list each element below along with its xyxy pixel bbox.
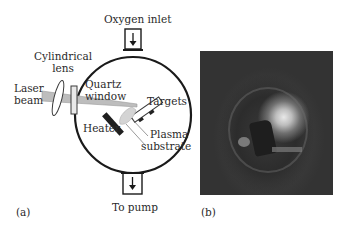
label-laser-beam-line2: beam [14, 94, 44, 106]
reflection-spot [238, 137, 250, 147]
label-oxygen-inlet: Oxygen inlet [104, 13, 171, 25]
label-quartz-window: Quartz window [85, 78, 126, 102]
label-plasma: Plasma [141, 128, 191, 140]
label-targets: Targets [147, 95, 187, 107]
label-heater: Heater [83, 122, 120, 134]
label-cylindrical-lens-line2: lens [34, 62, 92, 74]
plasma-plume [120, 107, 136, 124]
label-substrate: substrate [141, 140, 191, 152]
panel-a-label: (a) [16, 206, 30, 218]
label-plasma-substrate: Plasma substrate [141, 128, 191, 152]
plasma-photograph [200, 51, 333, 195]
label-quartz-window-line2: window [85, 90, 126, 102]
label-laser-beam-line1: Laser [14, 82, 44, 94]
holder-reflection [272, 147, 302, 152]
label-cylindrical-lens-line1: Cylindrical [34, 50, 92, 62]
label-laser-beam: Laser beam [14, 82, 44, 106]
label-to-pump: To pump [112, 201, 158, 213]
quartz-window [71, 86, 77, 114]
panel-b-label: (b) [201, 206, 216, 218]
label-quartz-window-line1: Quartz [85, 78, 126, 90]
label-cylindrical-lens: Cylindrical lens [34, 50, 92, 74]
